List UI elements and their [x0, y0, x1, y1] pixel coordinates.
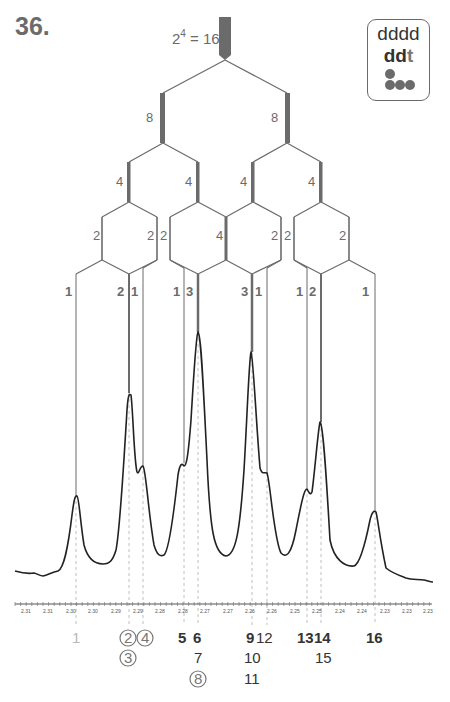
level4-label: 1 — [296, 284, 303, 299]
svg-text:2.28: 2.28 — [155, 608, 165, 614]
level3-label: 2 — [271, 228, 278, 243]
peak-number: 9 — [246, 629, 254, 646]
peak-numbers-row2: 3 7 10 15 — [120, 649, 332, 666]
peak-numbers-row3: 8 11 — [190, 670, 260, 687]
level1-stem-left — [160, 93, 165, 143]
level4-branches — [76, 260, 375, 274]
peak-number: 11 — [244, 670, 260, 687]
svg-text:2.30: 2.30 — [88, 608, 98, 614]
peak-number: 16 — [366, 629, 383, 646]
level3-label: 2 — [160, 228, 167, 243]
svg-text:2.25: 2.25 — [312, 608, 322, 614]
level4-label: 1 — [65, 284, 72, 299]
svg-text:2.29: 2.29 — [111, 608, 121, 614]
svg-text:2.23: 2.23 — [402, 608, 412, 614]
svg-text:2.27: 2.27 — [223, 608, 233, 614]
peak-number: 13 — [297, 629, 314, 646]
level2-label: 4 — [240, 174, 247, 189]
level1-branches — [163, 60, 287, 93]
level3-branches — [102, 202, 349, 217]
svg-text:2.27: 2.27 — [200, 608, 210, 614]
svg-text:2.30: 2.30 — [66, 608, 76, 614]
level4-label: 2 — [117, 284, 124, 299]
level4-label: 3 — [241, 284, 248, 299]
level4-label: 1 — [255, 284, 262, 299]
peak-number-circled: 2 — [124, 629, 132, 646]
splitting-tree-figure: 36. dddd ddt 24 = 16 8 8 — [0, 0, 450, 702]
level2-label: 4 — [185, 174, 192, 189]
dashed-guides — [76, 332, 375, 625]
peak-numbers-row1: 1 2 4 5 6 9 12 13 14 16 — [72, 629, 383, 646]
svg-text:2.31: 2.31 — [43, 608, 53, 614]
peak-number: 6 — [193, 629, 201, 646]
level1-stem-right — [285, 93, 290, 143]
svg-text:2.23: 2.23 — [380, 608, 390, 614]
svg-text:2.24: 2.24 — [357, 608, 367, 614]
axis-tick-labels: 2.31 2.31 2.30 2.30 2.29 2.29 2.28 2.28 … — [21, 608, 433, 614]
level3-label: 2 — [93, 228, 100, 243]
level4-label: 1 — [362, 284, 369, 299]
peak-number: 5 — [178, 629, 186, 646]
peak-number-circled: 3 — [124, 649, 132, 666]
svg-text:2.31: 2.31 — [21, 608, 31, 614]
svg-text:2.29: 2.29 — [133, 608, 143, 614]
peak-number-circled: 8 — [194, 670, 202, 687]
svg-text:2.25: 2.25 — [290, 608, 300, 614]
level3-stems — [102, 217, 349, 260]
peak-number: 7 — [194, 649, 202, 666]
peak-number: 1 — [72, 629, 80, 646]
level2-label: 4 — [116, 174, 123, 189]
nmr-spectrum-trace — [15, 332, 433, 582]
peak-number: 10 — [244, 649, 261, 666]
level2-stems — [127, 162, 323, 202]
root-stem — [219, 17, 231, 60]
level4-label: 2 — [309, 284, 316, 299]
total-lines-label: 24 = 16 — [172, 28, 220, 47]
peak-number: 14 — [314, 629, 331, 646]
peak-number-circled: 4 — [141, 629, 149, 646]
svg-text:2.26: 2.26 — [245, 608, 255, 614]
level1-label: 8 — [146, 110, 153, 125]
peak-number: 12 — [256, 629, 273, 646]
level4-label: 1 — [173, 284, 180, 299]
svg-text:2.26: 2.26 — [267, 608, 277, 614]
level4-label: 1 — [131, 284, 138, 299]
final-lines — [76, 268, 375, 511]
svg-text:2.28: 2.28 — [178, 608, 188, 614]
svg-text:2.24: 2.24 — [335, 608, 345, 614]
level4-label: 3 — [186, 284, 193, 299]
peak-number: 15 — [315, 649, 332, 666]
level1-label: 8 — [271, 110, 278, 125]
level3-label: 2 — [147, 228, 154, 243]
level3-label: 2 — [284, 228, 291, 243]
level3-label: 4 — [216, 228, 223, 243]
level2-label: 4 — [308, 174, 315, 189]
level2-branches — [129, 143, 321, 162]
tree-and-spectrum: 24 = 16 8 8 4 4 4 4 — [0, 0, 450, 702]
svg-text:2.23: 2.23 — [423, 608, 433, 614]
level3-label: 2 — [339, 228, 346, 243]
